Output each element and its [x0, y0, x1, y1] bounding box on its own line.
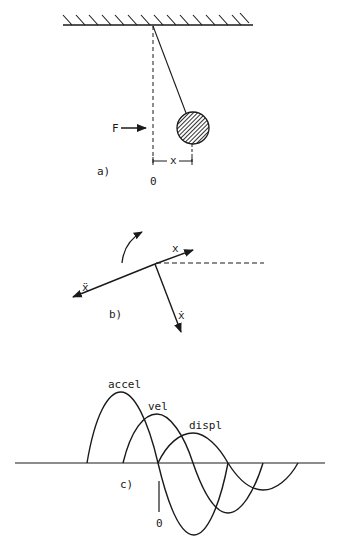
- displacement-label: x: [170, 154, 177, 167]
- origin-label-a: 0: [150, 175, 157, 188]
- force-label: F: [112, 122, 119, 135]
- accel-label: accel: [108, 378, 141, 391]
- panel-b-label: b): [109, 308, 122, 321]
- panel-a-label: a): [97, 165, 110, 178]
- pendulum-phase-diagram: F x 0 a) x ẍ ẋ b): [0, 0, 344, 555]
- ceiling-hatched-icon: [63, 13, 253, 25]
- panel-c-label: c): [120, 478, 133, 491]
- rotation-arrow-icon: [122, 232, 142, 263]
- pendulum-string: [153, 26, 186, 113]
- origin-label-c: 0: [156, 517, 163, 530]
- x-vector-label: x: [172, 242, 179, 255]
- pendulum-bob-icon: [177, 112, 209, 144]
- xdot-vector-label: ẋ: [178, 309, 185, 322]
- panel-a: F x 0 a): [63, 13, 253, 188]
- displ-curve: [158, 433, 298, 490]
- panel-c: accel vel displ 0 c): [15, 378, 325, 535]
- xddot-vector-label: ẍ: [82, 281, 89, 294]
- displ-label: displ: [189, 419, 222, 432]
- vel-label: vel: [148, 400, 168, 413]
- panel-b: x ẍ ẋ b): [73, 232, 264, 332]
